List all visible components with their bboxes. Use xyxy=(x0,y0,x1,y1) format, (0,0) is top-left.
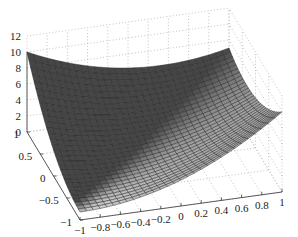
back-wall-grid-line xyxy=(27,8,229,36)
x-tick-label: 0.6 xyxy=(235,202,249,214)
z-tick-label: 2 xyxy=(16,110,22,122)
x-tick-label: 0.8 xyxy=(255,199,269,211)
z-tick-label: 8 xyxy=(16,62,22,74)
y-tick-label: 0 xyxy=(40,172,46,184)
x-tick-label: −0.2 xyxy=(151,213,171,225)
surface-plot: 024681012 −1−0.500.51 −1−0.8−0.6−0.4−0.2… xyxy=(0,0,298,237)
x-tick-label: 0.2 xyxy=(194,207,208,219)
z-axis-tick-labels: 024681012 xyxy=(10,30,22,138)
x-tick-label: −0.4 xyxy=(131,216,151,228)
z-tick-label: 10 xyxy=(10,46,22,58)
y-tick-label: 0.5 xyxy=(19,150,33,162)
x-tick-label: 1 xyxy=(279,196,285,208)
x-tick-label: 0.4 xyxy=(215,204,229,216)
surface-mesh xyxy=(27,48,282,212)
z-tick-label: 6 xyxy=(16,78,22,90)
x-tick-label: −0.6 xyxy=(110,218,130,230)
x-tick-label: −1 xyxy=(74,224,86,236)
z-tick-label: 4 xyxy=(16,94,22,106)
y-tick-label: 1 xyxy=(14,128,20,140)
z-tick-label: 12 xyxy=(10,30,21,42)
y-tick-label: −1 xyxy=(60,216,72,228)
y-tick-label: −0.5 xyxy=(39,194,59,206)
x-tick-label: −0.8 xyxy=(90,221,110,233)
x-tick-label: 0 xyxy=(178,210,184,222)
